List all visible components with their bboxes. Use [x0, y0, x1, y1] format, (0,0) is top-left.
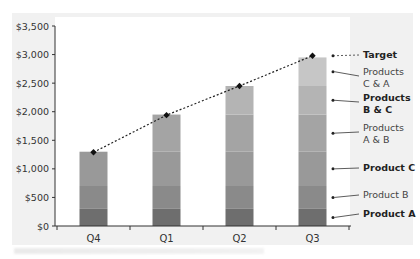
- legend-leader-line: [335, 214, 360, 217]
- legend-arrowhead: [332, 70, 335, 73]
- legend-arrowhead: [332, 196, 335, 199]
- y-tick-label: $2,000: [16, 106, 49, 117]
- target-line: [94, 56, 313, 153]
- legend-leader-line: [335, 195, 360, 197]
- legend-arrowhead: [332, 99, 335, 102]
- bar-segment: [299, 115, 327, 152]
- y-tick-label: $2,500: [16, 78, 49, 89]
- legend-label: Product B: [363, 189, 409, 200]
- stacked-bar-chart: $0$500$1,000$1,500$2,000$2,500$3,000$3,5…: [0, 0, 420, 259]
- legend-label: Product C: [363, 162, 415, 173]
- y-tick-label: $0: [37, 221, 49, 232]
- y-tick-label: $1,000: [16, 163, 49, 174]
- legend-label: B & C: [363, 104, 392, 115]
- legend-leader-line: [335, 132, 360, 133]
- legend-arrowhead: [332, 54, 335, 57]
- y-tick-label: $500: [25, 192, 49, 203]
- bar-segment: [299, 186, 327, 209]
- legend-label: Products: [363, 92, 411, 103]
- legend-leader-line: [335, 72, 360, 76]
- legend-leader-line: [335, 55, 360, 56]
- x-tick-label: Q4: [86, 233, 100, 244]
- bar-segment: [153, 152, 181, 186]
- legend-label: Products: [363, 66, 404, 77]
- legend-arrowhead: [332, 132, 335, 135]
- y-tick-label: $3,000: [16, 49, 49, 60]
- x-tick-label: Q2: [232, 233, 246, 244]
- bar-segment: [153, 186, 181, 209]
- legend-leader-line: [335, 100, 360, 102]
- bar-segment: [226, 209, 254, 226]
- legend-label: A & B: [363, 134, 389, 145]
- x-tick-label: Q3: [305, 233, 319, 244]
- legend-label: Products: [363, 122, 404, 133]
- figure-caption-faded: [14, 248, 264, 254]
- bar-segment: [299, 86, 327, 115]
- y-tick-label: $1,500: [16, 135, 49, 146]
- bar-segment: [226, 115, 254, 152]
- bar-segment: [299, 209, 327, 226]
- bar-segment: [153, 115, 181, 152]
- legend-label: C & A: [363, 78, 390, 89]
- legend-label: Product A: [363, 208, 416, 219]
- bar-segment: [153, 209, 181, 226]
- x-tick-label: Q1: [159, 233, 173, 244]
- bar-segment: [80, 209, 108, 226]
- legend-arrowhead: [332, 167, 335, 170]
- bar-segment: [226, 152, 254, 186]
- bar-segment: [80, 152, 108, 186]
- legend-arrowhead: [332, 216, 335, 219]
- y-tick-label: $3,500: [16, 21, 49, 32]
- legend-leader-line: [335, 168, 360, 169]
- bar-segment: [226, 186, 254, 209]
- bar-segment: [299, 57, 327, 86]
- bar-segment: [299, 152, 327, 186]
- bar-segment: [80, 186, 108, 209]
- legend-label: Target: [363, 49, 398, 60]
